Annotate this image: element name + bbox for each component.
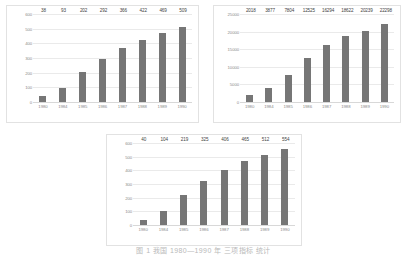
x-tick-label: 1988 bbox=[132, 104, 152, 109]
y-tick-label: 200 bbox=[125, 195, 132, 200]
bar-value-label: 16294 bbox=[322, 8, 334, 13]
x-tick-label: 1986 bbox=[298, 104, 317, 109]
x-tick-label: 1987 bbox=[317, 104, 336, 109]
y-tick-label: 200 bbox=[25, 70, 32, 75]
x-tick-label: 1987 bbox=[214, 227, 234, 232]
bar: 406 bbox=[221, 170, 228, 225]
bar: 509 bbox=[179, 27, 186, 102]
bar: 18622 bbox=[342, 36, 349, 102]
y-tick-label: 500 bbox=[25, 26, 32, 31]
bar-value-label: 292 bbox=[100, 8, 107, 13]
bar: 2018 bbox=[246, 95, 253, 102]
bar-value-label: 3877 bbox=[265, 8, 275, 13]
bar-group: 202 bbox=[73, 14, 93, 102]
bar-group: 509 bbox=[172, 14, 192, 102]
y-tick-label: 0 bbox=[237, 100, 239, 105]
bar-group: 93 bbox=[53, 14, 73, 102]
x-tick-label: 1980 bbox=[240, 104, 259, 109]
chart-panel-a: 6005004003002001000 38932022923664224695… bbox=[6, 5, 199, 123]
x-tick-label: 1989 bbox=[152, 104, 172, 109]
bar: 366 bbox=[119, 48, 126, 102]
y-tick-label: 10000 bbox=[228, 64, 239, 69]
bar-value-label: 422 bbox=[140, 8, 147, 13]
bar-group: 325 bbox=[194, 143, 214, 225]
x-tick-label: 1986 bbox=[93, 104, 113, 109]
bar-value-label: 219 bbox=[181, 137, 188, 142]
x-tick-label: 1990 bbox=[172, 104, 192, 109]
x-tick-label: 1984 bbox=[259, 104, 278, 109]
bar-value-label: 465 bbox=[242, 137, 249, 142]
bar-value-label: 469 bbox=[159, 8, 166, 13]
y-tick-label: 100 bbox=[125, 209, 132, 214]
bar: 554 bbox=[281, 149, 288, 225]
bar-group: 465 bbox=[234, 143, 254, 225]
bar-group: 7804 bbox=[279, 14, 298, 102]
y-tick-label: 15000 bbox=[228, 47, 239, 52]
y-tick-label: 100 bbox=[25, 85, 32, 90]
bar-series-b: 2018387778041252516294186222023922298 bbox=[240, 14, 394, 102]
bar: 465 bbox=[241, 161, 248, 225]
bar-value-label: 104 bbox=[161, 137, 168, 142]
bar: 93 bbox=[59, 88, 66, 102]
x-tick-label: 1984 bbox=[53, 104, 73, 109]
x-axis-a: 19801984198519861987198819891990 bbox=[33, 104, 192, 118]
x-tick-label: 1990 bbox=[375, 104, 394, 109]
x-axis-b: 19801984198519861987198819891990 bbox=[240, 104, 394, 118]
bar: 469 bbox=[159, 33, 166, 102]
bar-value-label: 18622 bbox=[341, 8, 353, 13]
bar-value-label: 20239 bbox=[360, 8, 372, 13]
y-tick-label: 300 bbox=[25, 56, 32, 61]
bar-series-a: 3893202292366422469509 bbox=[33, 14, 192, 102]
y-tick-label: 400 bbox=[125, 168, 132, 173]
y-tick-label: 20000 bbox=[228, 29, 239, 34]
bar-group: 20239 bbox=[356, 14, 375, 102]
bar-value-label: 38 bbox=[41, 8, 46, 13]
bar: 22298 bbox=[381, 24, 388, 102]
bar-value-label: 7804 bbox=[284, 8, 294, 13]
x-tick-label: 1989 bbox=[255, 227, 275, 232]
bar-group: 366 bbox=[113, 14, 133, 102]
y-axis-a: 6005004003002001000 bbox=[11, 14, 33, 102]
bar-value-label: 93 bbox=[61, 8, 66, 13]
bar-value-label: 22298 bbox=[380, 8, 392, 13]
bar-value-label: 202 bbox=[80, 8, 87, 13]
bar-group: 22298 bbox=[375, 14, 394, 102]
bar-group: 12525 bbox=[298, 14, 317, 102]
bar-value-label: 325 bbox=[201, 137, 208, 142]
bar: 12525 bbox=[304, 58, 311, 102]
bar-group: 38 bbox=[33, 14, 53, 102]
bar-value-label: 12525 bbox=[303, 8, 315, 13]
y-tick-label: 500 bbox=[125, 154, 132, 159]
x-tick-label: 1984 bbox=[153, 227, 173, 232]
x-tick-label: 1988 bbox=[234, 227, 254, 232]
bar-series-c: 40104219325406465512554 bbox=[133, 143, 295, 225]
bar: 40 bbox=[140, 220, 147, 225]
bar: 16294 bbox=[323, 45, 330, 102]
bar-value-label: 2018 bbox=[246, 8, 256, 13]
x-axis-c: 19801984198519861987198819891990 bbox=[133, 227, 295, 241]
bar-group: 16294 bbox=[317, 14, 336, 102]
x-tick-label: 1987 bbox=[113, 104, 133, 109]
bar-value-label: 509 bbox=[179, 8, 186, 13]
bar-group: 469 bbox=[152, 14, 172, 102]
y-tick-label: 600 bbox=[125, 141, 132, 146]
axis-baseline bbox=[133, 225, 295, 226]
bar-value-label: 512 bbox=[262, 137, 269, 142]
plot-area-c: 6005004003002001000 40104219325406465512… bbox=[107, 135, 301, 245]
x-tick-label: 1980 bbox=[33, 104, 53, 109]
y-tick-label: 5000 bbox=[230, 82, 239, 87]
x-tick-label: 1980 bbox=[133, 227, 153, 232]
bar-group: 219 bbox=[174, 143, 194, 225]
y-tick-label: 0 bbox=[30, 100, 32, 105]
bar-group: 2018 bbox=[240, 14, 259, 102]
bar-group: 406 bbox=[214, 143, 234, 225]
figure-caption: 图 1 我国 1980—1990 年 三项指标 统计 bbox=[0, 245, 407, 255]
bar-value-label: 406 bbox=[221, 137, 228, 142]
plot-area-b: 2500020000150001000050000 20183877780412… bbox=[214, 6, 400, 122]
y-tick-label: 600 bbox=[25, 12, 32, 17]
y-tick-label: 25000 bbox=[228, 12, 239, 17]
axis-baseline bbox=[240, 102, 394, 103]
y-tick-label: 0 bbox=[130, 223, 132, 228]
bar: 104 bbox=[160, 211, 167, 225]
bar: 512 bbox=[261, 155, 268, 225]
